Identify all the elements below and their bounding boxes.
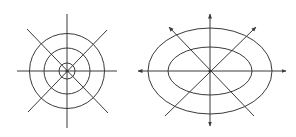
diagram-canvas — [0, 0, 296, 137]
center-dot — [208, 69, 211, 72]
diagram-svg — [0, 0, 296, 137]
elliptical-field-pattern — [138, 14, 286, 126]
circular-field-pattern — [17, 14, 117, 128]
center-dot — [65, 69, 68, 72]
